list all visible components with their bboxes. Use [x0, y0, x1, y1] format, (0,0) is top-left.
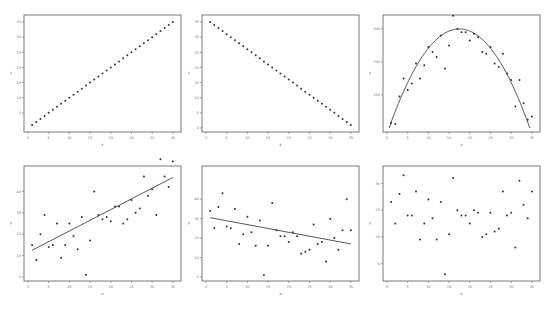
data-point [77, 248, 79, 250]
data-point [448, 44, 450, 46]
y-tick-label: 25 [17, 51, 21, 55]
data-point [423, 64, 425, 66]
data-point [448, 233, 450, 235]
data-point [246, 48, 248, 50]
y-tick-label: 300 [373, 27, 380, 31]
data-point [242, 233, 244, 235]
y-tick-label: 40 [195, 197, 199, 201]
data-point [48, 246, 50, 248]
data-point [81, 88, 83, 90]
y-tick-label: 0 [197, 275, 199, 279]
data-point [531, 115, 533, 117]
data-point [31, 244, 33, 246]
data-point [308, 94, 310, 96]
data-point [118, 60, 120, 62]
data-point [222, 192, 224, 194]
y-tick-label: 10 [17, 96, 21, 100]
data-point [126, 54, 128, 56]
data-point [284, 76, 286, 78]
data-point [308, 249, 310, 251]
x-tick-label: 5 [407, 136, 409, 140]
data-point [73, 235, 75, 237]
x-tick-label: 30 [509, 285, 513, 289]
data-point [263, 60, 265, 62]
y-tick-label: 10 [195, 96, 199, 100]
y-tick-label: 20 [195, 66, 199, 70]
data-point [122, 223, 124, 225]
x-tick-label: 20 [468, 136, 472, 140]
data-point [118, 205, 120, 207]
data-point [531, 190, 533, 192]
data-point [415, 190, 417, 192]
y-tick-label: 25 [376, 208, 380, 212]
data-point [275, 69, 277, 71]
x-tick-label: 20 [287, 136, 291, 140]
chart-panel-2: 0510152025303505101520253035xy [182, 11, 365, 152]
data-point [465, 214, 467, 216]
data-point [122, 57, 124, 59]
y-axis-label: y [10, 70, 13, 75]
data-point [251, 51, 253, 53]
data-point [89, 240, 91, 242]
data-point [73, 94, 75, 96]
data-point [213, 24, 215, 26]
data-point [498, 228, 500, 230]
data-point [230, 227, 232, 229]
data-point [325, 106, 327, 108]
x-tick-label: 5 [48, 136, 50, 140]
data-point [411, 82, 413, 84]
data-point [255, 245, 257, 247]
data-point [337, 115, 339, 117]
data-point [300, 88, 302, 90]
data-point [296, 235, 298, 237]
data-point [106, 69, 108, 71]
data-point [407, 214, 409, 216]
x-tick-label: 35 [530, 285, 534, 289]
data-point [35, 259, 37, 261]
data-point [506, 73, 508, 75]
data-point [60, 257, 62, 259]
data-point [415, 63, 417, 65]
x-axis-label: x [460, 291, 463, 296]
data-point [514, 106, 516, 108]
data-point [304, 251, 306, 253]
x-tick-label: 0 [205, 136, 207, 140]
x-tick-label: 0 [386, 136, 388, 140]
x-tick-label: 30 [150, 285, 154, 289]
data-point [110, 66, 112, 68]
data-point [394, 223, 396, 225]
y-axis-label: y [10, 220, 13, 225]
data-point [485, 53, 487, 55]
data-point [226, 33, 228, 35]
data-point [64, 244, 66, 246]
x-axis-label: x [101, 291, 104, 296]
data-point [494, 63, 496, 65]
data-point [35, 121, 37, 123]
data-point [102, 218, 104, 220]
data-point [139, 208, 141, 210]
y-axis-label: y [188, 70, 191, 75]
data-point [398, 193, 400, 195]
data-point [102, 73, 104, 75]
data-point [296, 85, 298, 87]
x-tick-label: 5 [226, 136, 228, 140]
data-point [469, 39, 471, 41]
data-point [284, 235, 286, 237]
data-point [151, 188, 153, 190]
data-point [280, 235, 282, 237]
data-point [135, 48, 137, 50]
x-tick-label: 15 [88, 136, 92, 140]
data-point [93, 190, 95, 192]
data-point [427, 46, 429, 48]
data-point [68, 97, 70, 99]
data-point [159, 30, 161, 32]
data-point [77, 91, 79, 93]
data-point [502, 53, 504, 55]
data-point [259, 220, 261, 222]
data-point [329, 218, 331, 220]
data-point [510, 79, 512, 81]
data-point [317, 243, 319, 245]
x-tick-label: 0 [27, 285, 29, 289]
data-point [313, 223, 315, 225]
plot-frame [202, 166, 359, 281]
